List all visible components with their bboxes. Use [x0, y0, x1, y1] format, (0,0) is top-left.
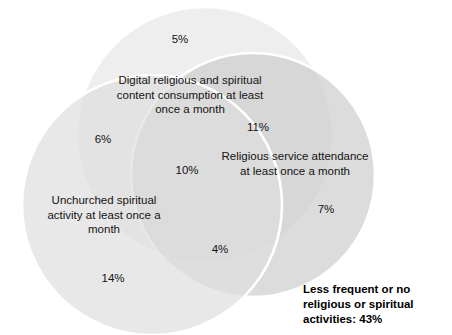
set-label-religious-service: Religious service attendance at least on…	[209, 149, 381, 178]
value-religious-and-unchurched: 4%	[202, 243, 238, 255]
venn-diagram-figure: Digital religious and spiritual content …	[0, 0, 452, 335]
value-digital-only: 5%	[160, 33, 200, 45]
value-religious-only: 7%	[308, 203, 344, 215]
set-label-digital-content: Digital religious and spiritual content …	[104, 73, 276, 117]
value-unchurched-only: 14%	[93, 272, 133, 284]
value-digital-and-unchurched: 6%	[85, 133, 121, 145]
value-all-three-overlap: 10%	[167, 164, 207, 176]
set-label-unchurched-activity: Unchurched spiritual activity at least o…	[34, 193, 174, 237]
value-digital-and-religious: 11%	[238, 121, 278, 133]
outside-regions-note: Less frequent or no religious or spiritu…	[303, 282, 448, 328]
